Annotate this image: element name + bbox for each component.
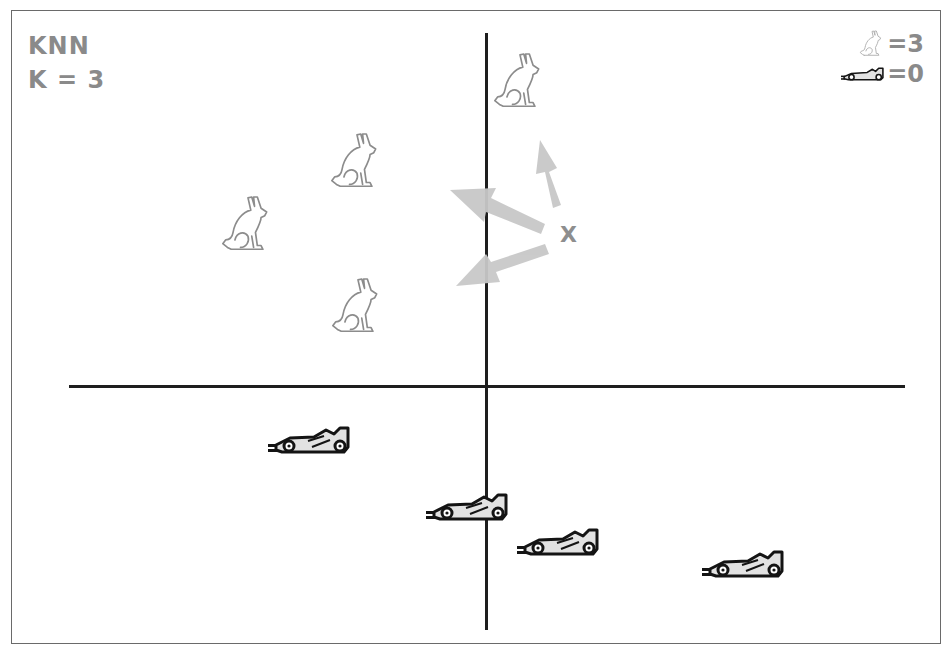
race-car-icon <box>516 527 602 557</box>
query-point-x: X <box>560 224 577 246</box>
race-car-icon <box>425 492 511 522</box>
rabbit-icon <box>220 195 276 255</box>
race-car-icon <box>701 549 787 579</box>
arrow-to-neighbor-3 <box>456 244 549 286</box>
rabbit-icon <box>329 132 385 192</box>
arrow-to-neighbor-1 <box>536 140 561 208</box>
rabbit-icon <box>330 277 386 337</box>
rabbit-icon <box>492 52 548 112</box>
arrow-to-neighbor-2 <box>450 188 545 234</box>
nearest-neighbor-arrows <box>0 0 948 653</box>
race-car-icon <box>267 425 353 455</box>
